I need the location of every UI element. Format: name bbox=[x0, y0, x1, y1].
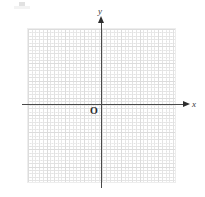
origin-label: O bbox=[90, 106, 98, 116]
coordinate-grid-figure: y x O bbox=[0, 0, 205, 197]
scan-artifact bbox=[19, 2, 25, 6]
x-axis-arrowhead-icon bbox=[183, 101, 190, 107]
y-axis-line bbox=[101, 22, 102, 188]
x-axis-line bbox=[22, 104, 185, 105]
y-axis-label: y bbox=[98, 7, 102, 16]
x-axis-label: x bbox=[192, 100, 196, 109]
y-axis-arrowhead-icon bbox=[98, 16, 104, 23]
